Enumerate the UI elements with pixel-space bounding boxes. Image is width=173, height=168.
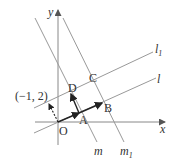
vector-O-to-neg1-2 (49, 104, 58, 122)
line-m1-label: m1 (120, 144, 133, 160)
point-B-label: B (104, 101, 112, 115)
coordinate-annotation: (−1, 2) (15, 89, 48, 103)
vector-AB (79, 103, 102, 113)
point-A-label: A (79, 113, 88, 127)
diagram-canvas: y x O A B C D (−1, 2) l1 l m m1 (0, 0, 173, 168)
line-m-label: m (94, 144, 103, 158)
line-l-label: l (157, 72, 161, 86)
origin-label: O (59, 124, 68, 138)
point-D-label: D (68, 81, 77, 95)
line-l1-label: l1 (155, 42, 162, 58)
point-C-label: C (89, 71, 97, 85)
y-axis-label: y (47, 5, 54, 19)
x-axis-label: x (159, 122, 166, 136)
vector-OA (58, 113, 79, 122)
